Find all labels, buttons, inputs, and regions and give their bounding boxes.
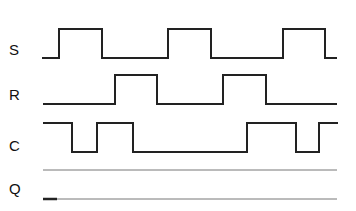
waveform-r [43,75,337,104]
waveform-c [43,123,338,152]
timing-diagram-canvas [0,0,356,211]
waveform-s [42,29,337,58]
